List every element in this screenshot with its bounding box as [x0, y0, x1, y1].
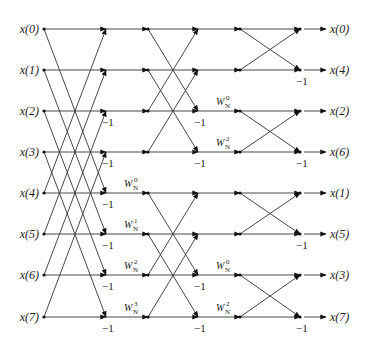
node-dot [42, 27, 45, 30]
node-dot [238, 150, 241, 153]
minus-one-label: −1 [102, 280, 114, 292]
twiddle-exponent: 0 [226, 94, 230, 102]
node-dot [42, 109, 45, 112]
input-label: x(7) [19, 310, 39, 324]
node-dot [298, 150, 301, 153]
node-dot [146, 191, 149, 194]
input-label: x(1) [19, 63, 39, 77]
twiddle-exponent: 2 [226, 300, 230, 308]
output-label: x(5) [329, 227, 349, 241]
minus-one-label: −1 [102, 116, 114, 128]
node-dot [298, 109, 301, 112]
twiddle-exponent: 2 [226, 135, 230, 143]
twiddle-exponent: 0 [226, 258, 230, 266]
node-dot [298, 27, 301, 30]
node-dot [146, 273, 149, 276]
node-dot [42, 150, 45, 153]
input-label: x(5) [19, 227, 39, 241]
node-dot [146, 315, 149, 318]
minus-one-label: −1 [102, 239, 114, 251]
node-dot [238, 273, 241, 276]
twiddle-subscript: N [225, 143, 230, 151]
output-label: x(4) [329, 63, 349, 77]
output-label: x(1) [329, 186, 349, 200]
twiddle-subscript: N [225, 102, 230, 110]
node-dot [238, 27, 241, 30]
twiddle-subscript: N [133, 266, 138, 274]
twiddle-exponent: 1 [134, 217, 138, 225]
node-dot [238, 68, 241, 71]
node-dot [298, 232, 301, 235]
twiddle-exponent: 0 [134, 176, 138, 184]
node-dot [42, 68, 45, 71]
node-dot [146, 27, 149, 30]
node-dot [146, 150, 149, 153]
input-label: x(0) [19, 22, 39, 36]
node-dot [42, 232, 45, 235]
input-label: x(3) [19, 145, 39, 159]
node-dot [238, 232, 241, 235]
node-dot [146, 232, 149, 235]
twiddle-subscript: N [225, 308, 230, 316]
minus-one-label: −1 [194, 116, 206, 128]
edges [44, 29, 326, 317]
node-dot [298, 273, 301, 276]
node-dot [298, 315, 301, 318]
output-label: x(2) [329, 104, 349, 118]
node-dot [42, 315, 45, 318]
node-dot [238, 109, 241, 112]
input-label: x(6) [19, 268, 39, 282]
fft-butterfly-diagram: x(0)x(0)x(1)x(4)x(2)x(2)x(3)x(6)x(4)x(1)… [0, 0, 367, 350]
output-label: x(0) [329, 22, 349, 36]
minus-one-label: −1 [102, 157, 114, 169]
input-label: x(2) [19, 104, 39, 118]
node-dot [146, 68, 149, 71]
minus-one-label: −1 [102, 198, 114, 210]
twiddle-subscript: N [133, 184, 138, 192]
node-dot [238, 191, 241, 194]
node-dot [238, 315, 241, 318]
minus-one-label: −1 [296, 75, 308, 87]
node-dot [42, 273, 45, 276]
minus-one-label: −1 [194, 157, 206, 169]
minus-one-label: −1 [102, 322, 114, 334]
node-dot [42, 191, 45, 194]
minus-one-label: −1 [296, 239, 308, 251]
twiddle-subscript: N [133, 308, 138, 316]
twiddle-subscript: N [225, 266, 230, 274]
twiddle-exponent: 2 [134, 258, 138, 266]
node-dot [298, 191, 301, 194]
twiddle-subscript: N [133, 225, 138, 233]
minus-one-label: −1 [296, 322, 308, 334]
output-label: x(7) [329, 310, 349, 324]
minus-one-label: −1 [194, 322, 206, 334]
minus-one-label: −1 [194, 280, 206, 292]
minus-one-label: −1 [296, 157, 308, 169]
node-dot [146, 109, 149, 112]
input-label: x(4) [19, 186, 39, 200]
node-dot [298, 68, 301, 71]
output-label: x(3) [329, 268, 349, 282]
output-label: x(6) [329, 145, 349, 159]
twiddle-exponent: 3 [134, 300, 138, 308]
